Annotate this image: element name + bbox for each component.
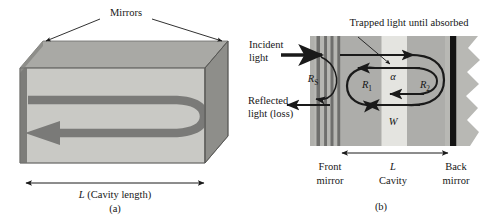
figure-root: Mirrors L (Cavity length) (a) Trapped li… <box>0 0 493 216</box>
panel-a-caption: (a) <box>109 203 121 215</box>
r1-label: R1 <box>361 79 372 93</box>
cavity-length-label: L (Cavity length) <box>78 189 152 201</box>
r2-label: R2 <box>419 79 430 93</box>
back-mirror-label-line1: Back <box>445 161 467 172</box>
rs-subscript: S <box>314 78 318 87</box>
incident-light-label-line2: light <box>249 52 268 63</box>
cavity-length-text: (Cavity length) <box>85 189 152 201</box>
figure-labels: Mirrors L (Cavity length) (a) Trapped li… <box>0 0 493 216</box>
r2-subscript: 2 <box>426 84 430 93</box>
reflected-light-label-line2: light (loss) <box>248 108 294 120</box>
reflected-light-label-line1: Reflected <box>248 95 289 106</box>
w-label: W <box>389 116 399 127</box>
cavity-l-label: L <box>389 161 396 172</box>
rs-label: RS <box>307 73 319 87</box>
front-mirror-label-line2: mirror <box>317 175 344 186</box>
mirrors-label: Mirrors <box>110 7 142 18</box>
panel-b-caption: (b) <box>375 201 388 213</box>
back-mirror-label-line2: mirror <box>443 175 470 186</box>
trapped-light-label: Trapped light until absorbed <box>350 17 470 28</box>
cavity-label: Cavity <box>379 175 408 186</box>
r1-subscript: 1 <box>368 84 372 93</box>
front-mirror-label-line1: Front <box>319 161 342 172</box>
incident-light-label-line1: Incident <box>249 39 283 50</box>
alpha-label: α <box>390 71 396 82</box>
